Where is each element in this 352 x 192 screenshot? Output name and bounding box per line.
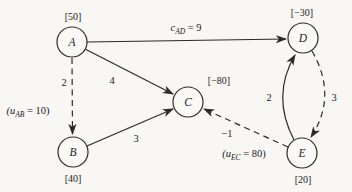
edge-e-c-capacity-open: (u (222, 148, 231, 160)
edge-a-b-capacity-sub: AB (14, 110, 25, 119)
edge-a-b-capacity-value: = 10) (24, 105, 50, 117)
edge-e-c-capacity-value: = 80) (241, 148, 267, 160)
node-b-supply-value: [40] (65, 173, 82, 184)
edge-e-d-cost-label: 2 (266, 92, 271, 103)
node-b-label: B (69, 146, 76, 158)
edge-a-to-c (85, 49, 173, 94)
edge-e-to-c-dashed (204, 109, 288, 147)
edge-b-to-c (87, 109, 173, 146)
edge-a-d-cost-value: = 9 (185, 22, 201, 33)
edge-e-to-d-curve (283, 55, 295, 140)
edge-a-d-cost-sub: AD (174, 27, 186, 36)
graph-canvas: A [50] D [−30] C [−80] B [40] E [20] cAD… (0, 0, 352, 192)
node-e-supply-value: [20] (295, 174, 312, 185)
edge-a-to-d (87, 39, 286, 42)
node-c-label: C (184, 96, 192, 108)
node-c-supply-value: [−80] (208, 75, 230, 86)
edge-a-b-capacity-label: (uAB = 10) (6, 105, 50, 119)
edge-a-c-cost-label: 4 (109, 75, 115, 86)
edge-a-d-cost-label: cAD = 9 (170, 22, 201, 36)
edge-a-b-cost-label: 2 (61, 77, 66, 88)
node-d-label: D (298, 32, 308, 44)
edge-d-to-e-curve-dashed (311, 51, 325, 137)
node-a-label: A (67, 36, 76, 48)
edge-e-c-capacity-label: (uEC = 80) (222, 148, 266, 162)
edge-a-b-capacity-open: (u (6, 105, 15, 117)
edge-d-e-cost-label: 3 (331, 92, 336, 103)
node-d-supply-value: [−30] (291, 7, 313, 18)
node-e-label: E (297, 147, 305, 159)
network-flow-diagram: A [50] D [−30] C [−80] B [40] E [20] cAD… (0, 0, 352, 192)
node-a-supply-value: [50] (65, 11, 82, 22)
edge-b-c-cost-label: 3 (133, 133, 138, 144)
edge-a-to-b-dashed (72, 58, 73, 134)
edge-e-c-cost-label: −1 (221, 128, 232, 139)
